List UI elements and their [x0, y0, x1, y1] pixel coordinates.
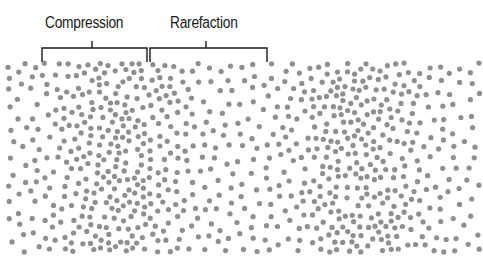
bracket-group — [42, 41, 267, 62]
compression-bracket — [42, 41, 147, 62]
rarefaction-bracket — [150, 41, 267, 62]
particle-field — [5, 60, 482, 254]
longitudinal-wave-diagram — [0, 0, 483, 267]
